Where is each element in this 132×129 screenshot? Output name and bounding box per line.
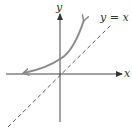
y-axis-label: y <box>55 1 63 14</box>
exponential-curve <box>24 20 84 73</box>
graph: y x y = x <box>0 0 132 129</box>
x-axis-label: x <box>124 67 131 80</box>
identity-line-label: y = x <box>99 11 129 24</box>
